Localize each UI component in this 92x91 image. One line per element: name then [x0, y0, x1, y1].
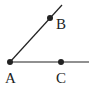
point-b-dot: [47, 15, 53, 21]
point-a-dot: [7, 59, 13, 65]
label-a: A: [5, 70, 16, 86]
point-c-dot: [58, 59, 64, 65]
label-c: C: [56, 70, 66, 86]
angle-diagram: A B C: [0, 0, 92, 91]
label-b: B: [56, 16, 66, 32]
ray-ab: [10, 5, 62, 62]
diagram-svg: A B C: [0, 0, 92, 91]
